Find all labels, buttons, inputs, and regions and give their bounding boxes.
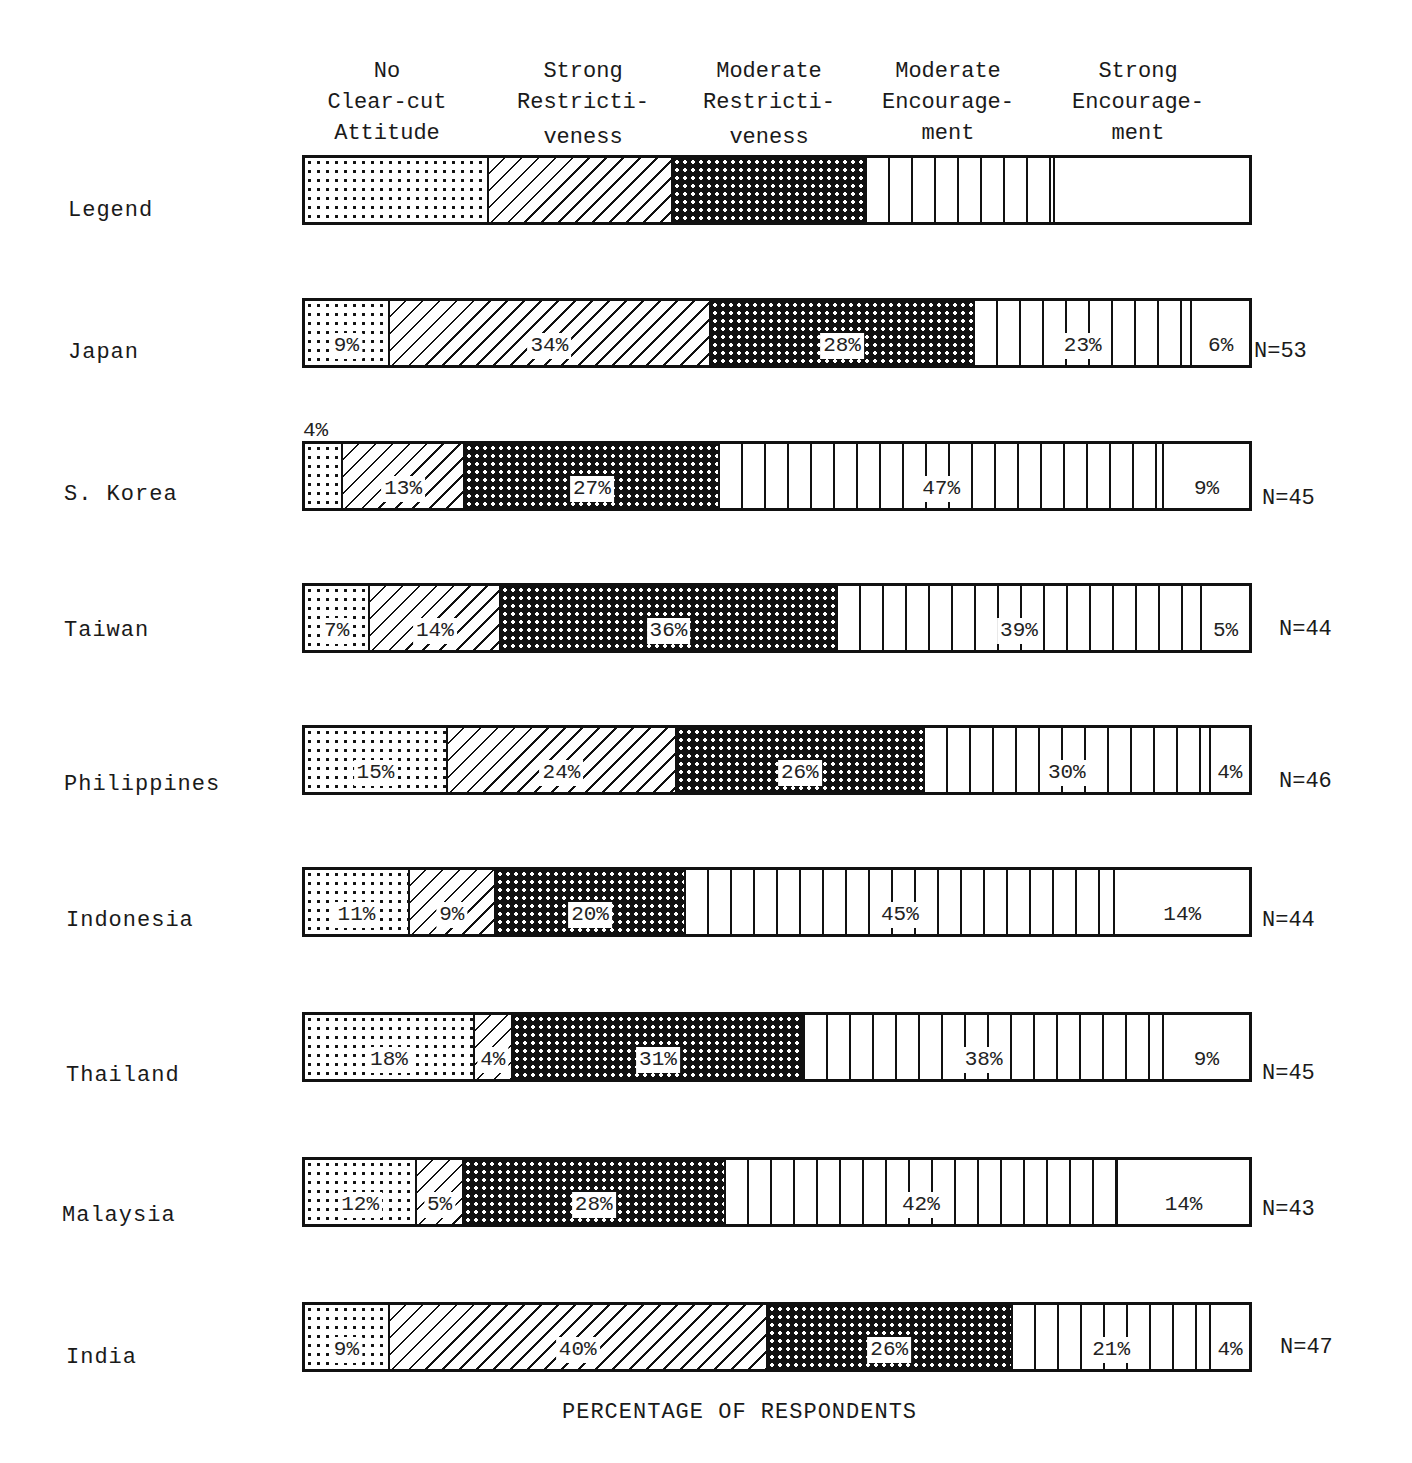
segment-value-label: 14% bbox=[1160, 902, 1204, 928]
segment-india-3: 21% bbox=[1013, 1305, 1211, 1369]
legend-header-line: Restricti- bbox=[508, 87, 658, 118]
segment-thailand-3: 38% bbox=[805, 1015, 1164, 1079]
segment-value-label: 12% bbox=[338, 1192, 382, 1218]
legend-header-line: Encourage- bbox=[1058, 87, 1218, 118]
segment-value-label: 9% bbox=[436, 902, 467, 928]
row-label-thailand: Thailand bbox=[66, 1063, 180, 1088]
segment-philippines-1: 24% bbox=[448, 728, 677, 792]
legend-header-line: Moderate bbox=[694, 56, 844, 87]
segment-indonesia-2: 20% bbox=[496, 870, 687, 934]
segment-india-1: 40% bbox=[390, 1305, 768, 1369]
segment-value-label: 34% bbox=[528, 333, 572, 359]
segment-indonesia-0: 11% bbox=[305, 870, 410, 934]
legend-header-line: veness bbox=[694, 122, 844, 153]
segment-value-label: 23% bbox=[1061, 333, 1105, 359]
segment-s-korea-3: 47% bbox=[720, 444, 1164, 508]
legend-swatch-moderate-restrictiveness bbox=[673, 158, 867, 222]
sample-size-label: N=53 bbox=[1254, 339, 1307, 364]
row-label-indonesia: Indonesia bbox=[66, 908, 194, 933]
segment-value-label: 4% bbox=[1214, 1337, 1245, 1363]
segment-india-4: 4% bbox=[1211, 1305, 1249, 1369]
segment-value-label: 38% bbox=[962, 1047, 1006, 1073]
sample-size-label: N=44 bbox=[1279, 617, 1332, 642]
segment-value-label: 5% bbox=[424, 1192, 455, 1218]
sample-size-label: N=44 bbox=[1262, 908, 1315, 933]
segment-value-label: 5% bbox=[1210, 618, 1241, 644]
segment-philippines-3: 30% bbox=[925, 728, 1211, 792]
segment-india-2: 26% bbox=[768, 1305, 1013, 1369]
legend-swatch-moderate-encouragement bbox=[867, 158, 1056, 222]
bar-thailand: 18%4%31%38%9% bbox=[302, 1012, 1252, 1082]
segment-value-label: 14% bbox=[413, 618, 457, 644]
segment-value-label: 21% bbox=[1089, 1337, 1133, 1363]
segment-value-label: 9% bbox=[331, 333, 362, 359]
segment-value-label: 31% bbox=[636, 1047, 680, 1073]
segment-thailand-1: 4% bbox=[475, 1015, 513, 1079]
segment-value-label: 42% bbox=[899, 1192, 943, 1218]
segment-value-label: 26% bbox=[778, 760, 822, 786]
legend-header-line: Strong bbox=[508, 56, 658, 87]
segment-taiwan-4: 5% bbox=[1202, 586, 1249, 650]
legend-bar bbox=[302, 155, 1252, 225]
segment-thailand-0: 18% bbox=[305, 1015, 475, 1079]
row-label-taiwan: Taiwan bbox=[64, 618, 149, 643]
segment-india-0: 9% bbox=[305, 1305, 390, 1369]
sample-size-label: N=45 bbox=[1262, 1061, 1315, 1086]
bar-indonesia: 11%9%20%45%14% bbox=[302, 867, 1252, 937]
legend-header-line: Clear-cut bbox=[312, 87, 462, 118]
segment-japan-1: 34% bbox=[390, 301, 711, 365]
segment-value-label: 28% bbox=[820, 333, 864, 359]
segment-value-label: 13% bbox=[381, 476, 425, 502]
segment-value-label: 24% bbox=[540, 760, 584, 786]
segment-s-korea-2: 27% bbox=[465, 444, 720, 508]
segment-value-label-outside: 4% bbox=[303, 419, 328, 442]
segment-taiwan-0: 7% bbox=[305, 586, 370, 650]
row-label-japan: Japan bbox=[68, 340, 139, 365]
segment-philippines-4: 4% bbox=[1211, 728, 1249, 792]
segment-malaysia-1: 5% bbox=[417, 1160, 464, 1224]
segment-value-label: 4% bbox=[477, 1047, 508, 1073]
segment-malaysia-2: 28% bbox=[464, 1160, 726, 1224]
legend-header-strong-restrictiveness: Strong Restricti- veness bbox=[508, 56, 658, 153]
legend-swatch-no-clear-cut bbox=[305, 158, 489, 222]
legend-header-line: Strong bbox=[1058, 56, 1218, 87]
legend-header-line: veness bbox=[508, 122, 658, 153]
segment-indonesia-4: 14% bbox=[1115, 870, 1248, 934]
row-label-philippines: Philippines bbox=[64, 772, 220, 797]
segment-malaysia-3: 42% bbox=[726, 1160, 1119, 1224]
legend-header-line: Moderate bbox=[868, 56, 1028, 87]
bar-taiwan: 7%14%36%39%5% bbox=[302, 583, 1252, 653]
legend-header-line: Attitude bbox=[312, 118, 462, 149]
bar-japan: 9%34%28%23%6% bbox=[302, 298, 1252, 368]
segment-value-label: 30% bbox=[1045, 760, 1089, 786]
segment-indonesia-3: 45% bbox=[686, 870, 1115, 934]
segment-value-label: 11% bbox=[335, 902, 379, 928]
segment-value-label: 7% bbox=[321, 618, 352, 644]
segment-japan-4: 6% bbox=[1192, 301, 1249, 365]
bar-india: 9%40%26%21%4% bbox=[302, 1302, 1252, 1372]
segment-s-korea-1: 13% bbox=[343, 444, 466, 508]
segment-indonesia-1: 9% bbox=[410, 870, 496, 934]
segment-value-label: 26% bbox=[867, 1337, 911, 1363]
segment-thailand-4: 9% bbox=[1164, 1015, 1249, 1079]
segment-value-label: 40% bbox=[556, 1337, 600, 1363]
segment-value-label: 27% bbox=[570, 476, 614, 502]
legend-header-moderate-restrictiveness: Moderate Restricti- veness bbox=[694, 56, 844, 153]
segment-value-label: 45% bbox=[878, 902, 922, 928]
segment-taiwan-1: 14% bbox=[370, 586, 501, 650]
row-label-india: India bbox=[66, 1345, 137, 1370]
sample-size-label: N=43 bbox=[1262, 1197, 1315, 1222]
sample-size-label: N=45 bbox=[1262, 486, 1315, 511]
bar-malaysia: 12%5%28%42%14% bbox=[302, 1157, 1252, 1227]
segment-value-label: 9% bbox=[331, 1337, 362, 1363]
segment-philippines-0: 15% bbox=[305, 728, 448, 792]
segment-s-korea-0 bbox=[305, 444, 343, 508]
segment-philippines-2: 26% bbox=[677, 728, 925, 792]
segment-s-korea-4: 9% bbox=[1164, 444, 1249, 508]
sample-size-label: N=46 bbox=[1279, 769, 1332, 794]
legend-header-moderate-encouragement: Moderate Encourage- ment bbox=[868, 56, 1028, 149]
segment-value-label: 9% bbox=[1191, 476, 1222, 502]
bar-philippines: 15%24%26%30%4% bbox=[302, 725, 1252, 795]
legend-header-line: ment bbox=[868, 118, 1028, 149]
segment-japan-0: 9% bbox=[305, 301, 390, 365]
